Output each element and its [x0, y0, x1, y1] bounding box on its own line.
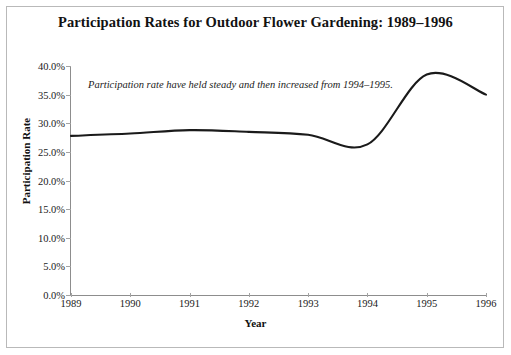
series-path-participation-rate	[71, 73, 486, 148]
series-line-chart	[0, 0, 511, 355]
chart-figure: Participation Rates for Outdoor Flower G…	[0, 0, 511, 355]
